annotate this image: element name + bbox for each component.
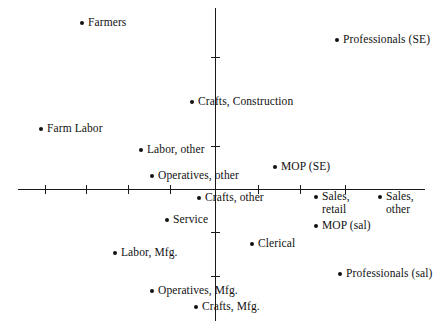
data-point-label: Service xyxy=(173,213,208,226)
y-axis-tick xyxy=(211,57,220,58)
x-axis-tick xyxy=(128,185,129,194)
x-axis-tick xyxy=(170,185,171,194)
data-point-marker xyxy=(150,289,154,293)
x-axis-tick xyxy=(300,185,301,194)
data-point-label: Operatives, other xyxy=(158,169,239,182)
data-point-marker xyxy=(314,195,318,199)
data-point-label: Farm Labor xyxy=(47,122,103,135)
data-point-marker xyxy=(80,21,84,25)
data-point-label: Sales, other xyxy=(386,190,414,215)
data-point-marker xyxy=(165,218,169,222)
data-point-label: Clerical xyxy=(258,237,295,250)
data-point-marker xyxy=(190,100,194,104)
data-point-label: Labor, Mfg. xyxy=(121,246,178,259)
data-point-marker xyxy=(314,224,318,228)
data-point-label: Crafts, Mfg. xyxy=(202,300,260,313)
y-axis-tick xyxy=(211,232,220,233)
data-point-label: MOP (SE) xyxy=(281,160,330,173)
data-point-marker xyxy=(150,174,154,178)
data-point-label: Crafts, other xyxy=(205,191,264,204)
data-point-label: Labor, other xyxy=(147,143,205,156)
data-point-label: MOP (sal) xyxy=(322,219,371,232)
data-point-marker xyxy=(338,272,342,276)
data-point-label: Sales, retail xyxy=(322,190,350,215)
data-point-label: Crafts, Construction xyxy=(198,95,293,108)
x-axis-tick xyxy=(45,185,46,194)
data-point-label: Farmers xyxy=(88,16,126,29)
data-point-marker xyxy=(273,165,277,169)
y-axis-line xyxy=(215,8,216,321)
data-point-marker xyxy=(39,127,43,131)
data-point-label: Professionals (sal) xyxy=(346,267,433,280)
data-point-label: Professionals (SE) xyxy=(343,33,430,46)
data-point-marker xyxy=(378,195,382,199)
y-axis-tick xyxy=(211,146,220,147)
data-point-marker xyxy=(197,196,201,200)
data-point-marker xyxy=(139,148,143,152)
scatter-plot: FarmersProfessionals (SE)Crafts, Constru… xyxy=(0,0,435,333)
data-point-marker xyxy=(113,251,117,255)
data-point-marker xyxy=(250,242,254,246)
y-axis-tick xyxy=(211,276,220,277)
data-point-marker xyxy=(194,305,198,309)
data-point-label: Operatives, Mfg. xyxy=(158,284,238,297)
data-point-marker xyxy=(335,38,339,42)
x-axis-tick xyxy=(86,185,87,194)
x-axis-line xyxy=(18,189,425,190)
